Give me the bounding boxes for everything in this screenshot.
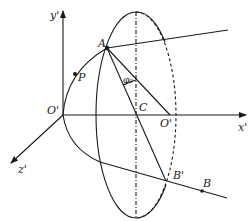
label-O2: O': [160, 117, 172, 130]
label-origin: O': [47, 104, 59, 117]
label-B: B: [202, 177, 211, 190]
label-Bprime: B': [172, 169, 184, 182]
ellipse-bottom-solid: [136, 185, 166, 218]
label-z-axis: z': [17, 163, 27, 176]
z-axis: [11, 115, 63, 163]
point-P: [73, 72, 77, 76]
arc-lower: [63, 115, 100, 162]
label-A: A: [97, 37, 106, 50]
ray-A: [107, 30, 228, 48]
geometry-diagram: y' x' z' O' A P C O' B' B φ₀: [0, 0, 252, 221]
label-C: C: [139, 101, 148, 114]
label-x-axis: x': [238, 121, 247, 134]
label-y-axis: y': [49, 9, 59, 22]
label-P: P: [77, 71, 86, 84]
label-angle-phi0: φ₀: [123, 75, 133, 85]
ellipse-top-solid: [136, 12, 165, 42]
